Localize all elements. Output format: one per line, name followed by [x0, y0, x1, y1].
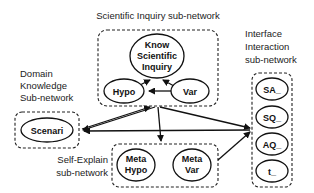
scientific-inquiry-label: Scientific Inquiry sub-network	[96, 10, 220, 21]
svg-text:Know: Know	[145, 40, 170, 50]
svg-text:sub-network: sub-network	[56, 167, 108, 178]
svg-text:Hypo: Hypo	[113, 87, 136, 97]
node-know-scientific-inquiry: Know Scientific Inquiry	[130, 34, 184, 78]
svg-text:sub-network: sub-network	[245, 54, 297, 65]
node-hypo: Hypo	[104, 79, 144, 103]
edge-si-to-domain	[83, 107, 155, 130]
node-sq: SQ_	[256, 106, 288, 128]
edge-var-to-know	[163, 80, 174, 86]
svg-text:Scientific: Scientific	[137, 51, 177, 61]
svg-text:Meta: Meta	[126, 154, 147, 164]
node-aq: AQ_	[256, 133, 288, 155]
node-var: Var	[171, 79, 209, 103]
svg-text:Sub-network: Sub-network	[20, 92, 74, 103]
svg-text:Knowledge: Knowledge	[20, 80, 67, 91]
self-explain-label: Self-Explain sub-network	[56, 154, 108, 178]
domain-knowledge-label: Domain Knowledge Sub-network	[20, 68, 74, 103]
svg-text:Self-Explain: Self-Explain	[57, 154, 108, 165]
node-scenari: Scenari	[21, 118, 73, 142]
node-sa: SA_	[256, 78, 288, 100]
svg-text:Hypo: Hypo	[125, 165, 148, 175]
svg-text:t_: t_	[268, 167, 277, 177]
svg-text:Meta: Meta	[182, 154, 203, 164]
svg-text:Interface: Interface	[245, 28, 282, 39]
interface-interaction-label: Interface Interaction sub-network	[245, 28, 297, 65]
svg-text:Scenari: Scenari	[31, 126, 64, 136]
svg-text:Domain: Domain	[20, 68, 53, 79]
edge-self-explain-to-interface	[218, 132, 250, 160]
svg-text:AQ_: AQ_	[263, 140, 283, 150]
node-meta-hypo: Meta Hypo	[117, 149, 155, 181]
edge-si-to-interface	[160, 107, 250, 128]
svg-text:SQ_: SQ_	[263, 113, 282, 123]
node-meta-var: Meta Var	[173, 149, 211, 181]
svg-text:Interaction: Interaction	[245, 41, 289, 52]
svg-text:Inquiry: Inquiry	[142, 62, 172, 72]
svg-text:Var: Var	[185, 165, 200, 175]
network-diagram: Scientific Inquiry sub-network Domain Kn…	[0, 0, 314, 193]
edge-si-to-self-explain	[158, 107, 161, 141]
svg-text:SA_: SA_	[263, 85, 282, 95]
edge-interface-to-domain	[84, 130, 250, 131]
svg-text:Var: Var	[183, 87, 198, 97]
node-t: t_	[256, 160, 288, 182]
edge-domain-to-si	[82, 107, 150, 129]
